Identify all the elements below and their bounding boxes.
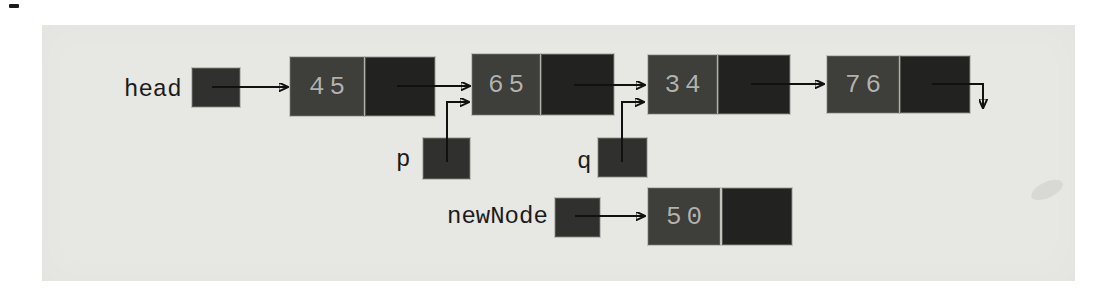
q-pointer-box — [598, 138, 647, 177]
head-pointer-box — [192, 68, 240, 107]
node-45-data-cell: 45 — [290, 57, 364, 116]
scan-artifact-mark — [9, 4, 19, 8]
p-label: p — [396, 148, 410, 172]
node-76-data-cell: 76 — [827, 56, 899, 113]
newnode-pointer-box — [555, 198, 600, 237]
figure-canvas: head p q newNode 45 65 34 76 50 — [0, 0, 1108, 295]
node-65-value: 65 — [483, 70, 529, 100]
node-45-value: 45 — [304, 72, 350, 102]
node-76-value: 76 — [840, 70, 886, 100]
node-50-next-cell — [722, 188, 792, 245]
node-45-next-cell — [365, 57, 435, 116]
node-34-next-cell — [718, 55, 790, 114]
node-34-data-cell: 34 — [648, 55, 717, 114]
node-65-data-cell: 65 — [472, 54, 540, 115]
node-50-data-cell: 50 — [648, 188, 720, 245]
newnode-label: newNode — [447, 205, 548, 229]
node-50-value: 50 — [661, 202, 707, 232]
node-34-value: 34 — [659, 70, 705, 100]
node-76-next-cell — [900, 56, 970, 113]
node-65-next-cell — [541, 54, 614, 115]
q-label: q — [577, 150, 591, 174]
head-label: head — [124, 78, 182, 102]
p-pointer-box — [423, 138, 470, 179]
